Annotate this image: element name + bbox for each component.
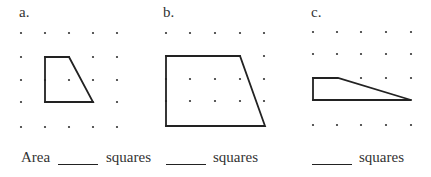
grid-dot bbox=[385, 77, 387, 79]
quadrilateral-shape bbox=[166, 56, 265, 126]
grid-dot bbox=[360, 53, 362, 55]
grid-dot bbox=[189, 100, 191, 102]
grid-dot bbox=[263, 55, 265, 57]
grid-dot bbox=[239, 78, 241, 80]
grid-dot bbox=[360, 31, 362, 33]
grid-dot bbox=[410, 53, 412, 55]
grid-dot bbox=[312, 31, 314, 33]
grid-dot bbox=[92, 32, 94, 34]
quadrilateral-shape bbox=[313, 78, 411, 100]
grid-dot bbox=[263, 78, 265, 80]
grid-dot bbox=[92, 79, 94, 81]
grid-dot bbox=[20, 32, 22, 34]
figure-b bbox=[165, 32, 265, 127]
grid-dot bbox=[92, 126, 94, 128]
grid-dot bbox=[239, 100, 241, 102]
grid-dot bbox=[336, 124, 338, 126]
grid-dot bbox=[214, 32, 216, 34]
grid-dot bbox=[239, 32, 241, 34]
grid-dot bbox=[68, 79, 70, 81]
grid-dot bbox=[263, 100, 265, 102]
unit-label-c: squares bbox=[359, 149, 404, 166]
grid-dot bbox=[263, 32, 265, 34]
grid-dot bbox=[385, 31, 387, 33]
grid-dot bbox=[20, 79, 22, 81]
grid-dot bbox=[360, 124, 362, 126]
grid-dot bbox=[312, 53, 314, 55]
grid-dot bbox=[410, 31, 412, 33]
grid-dot bbox=[116, 56, 118, 58]
unit-label-a: squares bbox=[106, 149, 151, 166]
grid-dot bbox=[189, 32, 191, 34]
grid-dot bbox=[44, 32, 46, 34]
grid-dot bbox=[20, 56, 22, 58]
dot-grid-figures bbox=[0, 0, 431, 140]
answer-blank-b[interactable] bbox=[166, 164, 206, 165]
grid-dot bbox=[20, 126, 22, 128]
grid-dot bbox=[214, 78, 216, 80]
grid-dot bbox=[189, 78, 191, 80]
grid-dot bbox=[116, 79, 118, 81]
grid-dot bbox=[312, 124, 314, 126]
area-label: Area bbox=[21, 149, 50, 166]
grid-dot bbox=[410, 124, 412, 126]
grid-dot bbox=[165, 32, 167, 34]
grid-dot bbox=[20, 101, 22, 103]
answer-blank-a[interactable] bbox=[58, 164, 98, 165]
grid-dot bbox=[385, 53, 387, 55]
grid-dot bbox=[44, 126, 46, 128]
grid-dot bbox=[92, 56, 94, 58]
grid-dot bbox=[116, 126, 118, 128]
unit-label-b: squares bbox=[213, 149, 258, 166]
figure-c bbox=[312, 31, 412, 126]
grid-dot bbox=[336, 31, 338, 33]
grid-dot bbox=[68, 126, 70, 128]
grid-dot bbox=[336, 53, 338, 55]
grid-dot bbox=[116, 101, 118, 103]
grid-dot bbox=[68, 32, 70, 34]
grid-dot bbox=[385, 124, 387, 126]
figure-a bbox=[20, 32, 118, 128]
grid-dot bbox=[410, 77, 412, 79]
grid-dot bbox=[116, 32, 118, 34]
grid-dot bbox=[214, 100, 216, 102]
grid-dot bbox=[360, 77, 362, 79]
answer-blank-c[interactable] bbox=[312, 164, 352, 165]
